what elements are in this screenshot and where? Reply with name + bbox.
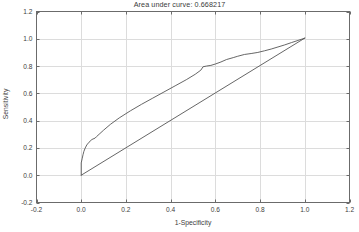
x-tick-label: -0.2 [22,206,52,213]
y-tick-label: 0.0 [7,172,33,179]
y-tick-label: 0.8 [7,63,33,70]
x-tick-label: 0.0 [66,206,96,213]
x-tick-label: 1.2 [335,206,359,213]
x-tick-label: 0.4 [156,206,186,213]
plot-area [0,0,359,232]
y-tick-label: 0.6 [7,90,33,97]
y-axis-label: Sensitivity [2,74,10,134]
y-tick-label: -0.2 [7,199,33,206]
data-series-layer [81,38,305,175]
y-tick-label: 1.0 [7,35,33,42]
x-tick-label: 0.8 [245,206,275,213]
series-line-1 [81,38,305,175]
x-tick-label: 0.6 [200,206,230,213]
tick-marks [37,12,351,204]
y-tick-label: 0.4 [7,117,33,124]
y-tick-label: 1.2 [7,8,33,15]
x-axis-label: 1-Specificity [36,219,350,227]
y-tick-label: 0.2 [7,144,33,151]
x-tick-label: 0.2 [111,206,141,213]
roc-chart-figure: Area under curve: 0.668217 -0.20.00.20.4… [0,0,359,232]
x-tick-label: 1.0 [290,206,320,213]
